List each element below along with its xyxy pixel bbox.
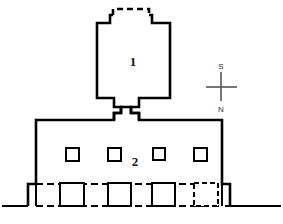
compass-label-top: S <box>218 62 223 71</box>
basement-opening-3 <box>152 183 175 206</box>
elevation-drawing-figure: S N 1 2 <box>0 0 283 224</box>
tower-outline-left <box>97 15 121 120</box>
tower-roof-notch-dashed <box>113 9 149 15</box>
basement-opening-4-hidden <box>194 183 218 206</box>
main-window-1 <box>66 148 79 161</box>
main-window-3 <box>153 148 165 160</box>
main-block-number-label: 2 <box>132 154 139 169</box>
compass-label-bottom: N <box>218 105 224 114</box>
basement-opening-2 <box>108 183 131 206</box>
compass-rose: S N <box>206 62 237 114</box>
basement-group <box>36 183 222 206</box>
main-window-4 <box>194 148 207 161</box>
tower-number-label: 1 <box>130 54 137 69</box>
elevation-drawing-svg: S N 1 2 <box>0 0 283 224</box>
tower-outline-right <box>131 15 170 120</box>
basement-opening-1 <box>60 183 84 206</box>
main-window-2 <box>108 148 121 161</box>
